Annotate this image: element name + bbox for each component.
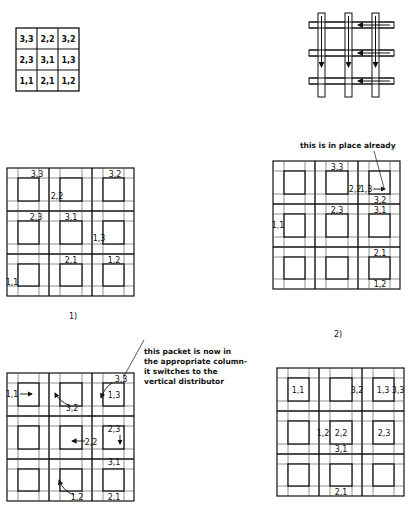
packet-label: 3,1 bbox=[374, 206, 387, 215]
annotation-line: it switches to the bbox=[144, 367, 218, 376]
annotation-line: vertical distributor bbox=[144, 377, 224, 386]
packet-label: 1,3 bbox=[377, 386, 390, 395]
packet-label: 3,3 bbox=[115, 375, 128, 384]
packet-label: 3,1 bbox=[335, 445, 348, 454]
packet-label: 1,3 bbox=[93, 234, 106, 243]
panel-caption: 2) bbox=[334, 330, 342, 339]
packet-label: 1,2 bbox=[108, 256, 121, 265]
matrix-cell: 3,3 bbox=[19, 35, 33, 44]
packet-label: 2,1 bbox=[65, 256, 78, 265]
packet-label: 1,2 bbox=[374, 280, 387, 289]
packet-label: 3,3 bbox=[31, 170, 44, 179]
packet-label: 1,1 bbox=[6, 390, 19, 399]
matrix-cell: 3,2 bbox=[61, 35, 75, 44]
matrix-cell: 1,2 bbox=[61, 77, 75, 86]
panel-step-4: 1,1 3,2 1,3 3,3 1,2 2,2 2,3 3,1 2,1 bbox=[277, 368, 404, 497]
matrix-cell: 2,3 bbox=[19, 56, 33, 65]
packet-label: 2,3 bbox=[378, 429, 391, 438]
packet-label: 3,3 bbox=[331, 163, 344, 172]
packet-label: 2,3 bbox=[331, 206, 344, 215]
packet-label: 1,1 bbox=[6, 278, 19, 287]
matrix-cell: 3,1 bbox=[40, 56, 55, 65]
packet-label: 3,2 bbox=[374, 196, 387, 205]
annotation-leader-line bbox=[123, 340, 144, 378]
packet-label: 3,1 bbox=[108, 458, 121, 467]
packet-label: 3,3 bbox=[392, 386, 405, 395]
matrix-cell: 1,3 bbox=[61, 56, 75, 65]
annotation-line: the appropriate column- bbox=[144, 357, 247, 366]
panel-step-1: 3,3 2,2 3,2 2,3 3,1 1,3 2,1 1,2 1,1 bbox=[6, 168, 134, 296]
annotation-line: this packet is now in bbox=[144, 347, 231, 356]
packet-label: 2,1 bbox=[374, 249, 387, 258]
panel-step-2: 3,3 2,2 1,3 3,2 2,3 3,1 1,1 2,1 1,2 bbox=[272, 161, 400, 289]
packet-matrix: 3,3 2,2 3,2 2,3 3,1 1,3 1,1 2,1 1,2 bbox=[16, 28, 79, 91]
packet-label: 1,3 bbox=[108, 391, 121, 400]
annotation-packet-column: this packet is now in the appropriate co… bbox=[144, 347, 247, 386]
panel-step-3: 3,3 1,1 1,3 3,2 2,3 2,2 3,1 1,2 2,1 bbox=[6, 373, 134, 502]
crossbar-schematic bbox=[309, 13, 394, 97]
packet-label: 1,1 bbox=[292, 386, 305, 395]
packet-label: 3,2 bbox=[109, 170, 122, 179]
packet-label: 2,2 bbox=[85, 438, 98, 447]
matrix-cell: 1,1 bbox=[19, 77, 34, 86]
matrix-cell: 2,2 bbox=[40, 35, 54, 44]
packet-label: 2,3 bbox=[30, 213, 43, 222]
packet-label: 1,1 bbox=[272, 221, 285, 230]
packet-label: 3,1 bbox=[65, 213, 78, 222]
panel-caption: 1) bbox=[69, 312, 77, 321]
packet-label: 3,2 bbox=[66, 404, 79, 413]
packet-label: 2,1 bbox=[335, 488, 348, 497]
packet-label: 2,2 bbox=[335, 429, 348, 438]
packet-label: 3,2 bbox=[351, 386, 364, 395]
packet-label: 2,2 bbox=[51, 192, 64, 201]
packet-label: 2,1 bbox=[108, 493, 121, 502]
packet-label: 1,3 bbox=[360, 185, 373, 194]
annotation-in-place: this is in place already bbox=[300, 141, 396, 150]
diagram-canvas: 3,3 2,2 3,2 2,3 3,1 1,3 1,1 2,1 1,2 bbox=[0, 0, 410, 506]
packet-label: 1,2 bbox=[317, 429, 330, 438]
packet-label: 2,3 bbox=[108, 425, 121, 434]
matrix-cell: 2,1 bbox=[40, 77, 55, 86]
